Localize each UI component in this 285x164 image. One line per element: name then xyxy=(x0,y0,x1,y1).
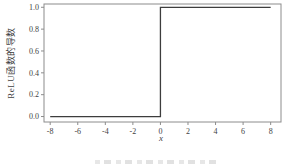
x-tick-label: 2 xyxy=(186,127,190,136)
x-tick-label: -6 xyxy=(74,127,81,136)
x-axis-label: x xyxy=(159,133,163,143)
y-tick-label: 0.0 xyxy=(29,112,39,121)
x-tick-label: -4 xyxy=(102,127,109,136)
x-tick-label: 6 xyxy=(241,127,245,136)
x-tick-label: -2 xyxy=(130,127,137,136)
x-tick-label: 4 xyxy=(214,127,218,136)
relu-derivative-figure: -8-6-4-2024680.00.20.40.60.81.0 ReLU函数的导… xyxy=(0,0,285,164)
y-tick-label: 0.4 xyxy=(29,69,39,78)
y-tick-label: 0.8 xyxy=(29,25,39,34)
truncated-caption-fragment xyxy=(95,160,217,164)
y-tick-label: 0.6 xyxy=(29,47,39,56)
x-tick-label: -8 xyxy=(47,127,54,136)
relu-derivative-plot-canvas: -8-6-4-2024680.00.20.40.60.81.0 xyxy=(0,0,285,164)
y-axis-label: ReLU函数的导数 xyxy=(4,27,17,99)
y-tick-label: 1.0 xyxy=(29,3,39,12)
relu-derivative-line xyxy=(50,7,270,116)
x-tick-label: 8 xyxy=(269,127,273,136)
plot-frame xyxy=(44,4,281,122)
y-tick-label: 0.2 xyxy=(29,90,39,99)
